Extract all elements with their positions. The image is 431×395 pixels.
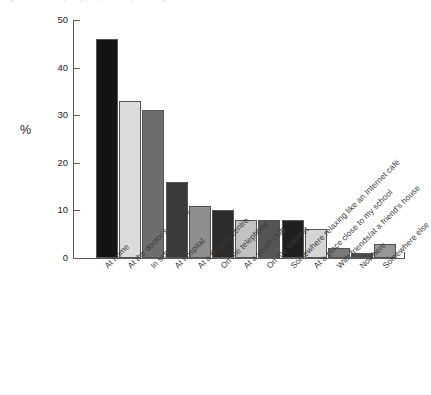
x-axis-label: Somewhere else — [381, 220, 431, 270]
x-axis-label: At home — [103, 242, 131, 270]
